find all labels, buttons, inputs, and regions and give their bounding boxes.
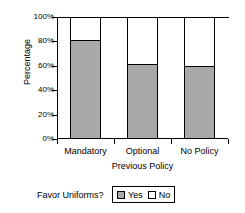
white-swatch-icon — [148, 191, 156, 199]
bar-yes-optional[interactable] — [128, 64, 157, 138]
bar-yes-no-policy[interactable] — [185, 66, 214, 138]
y-tick-label: 80% — [20, 37, 54, 45]
stacked-bar-chart: Percentage 100% 80% 60% 40% 20% 0% — [0, 0, 245, 213]
y-tick-label: 40% — [20, 86, 54, 94]
legend-entry-yes[interactable]: Yes — [117, 190, 143, 200]
bar-no-no-policy[interactable] — [184, 17, 215, 139]
legend: Favor Uniforms? Yes No — [0, 186, 245, 208]
bar-yes-mandatory[interactable] — [71, 40, 100, 138]
legend-entry-no[interactable]: No — [148, 190, 171, 200]
bar-no-optional[interactable] — [127, 17, 158, 139]
x-tick-mark — [114, 139, 115, 144]
x-tick-label-optional: Optional — [114, 146, 171, 156]
legend-box: Yes No — [112, 186, 175, 203]
bar-group-mandatory[interactable] — [70, 17, 101, 139]
y-tick-label: 100% — [20, 13, 54, 21]
x-tick-mark — [57, 139, 58, 144]
legend-label-yes: Yes — [128, 190, 143, 200]
x-tick-mark — [228, 139, 229, 144]
x-tick-label-mandatory: Mandatory — [57, 146, 114, 156]
legend-label-no: No — [159, 190, 171, 200]
y-tick-label: 60% — [20, 62, 54, 70]
bar-group-optional[interactable] — [127, 17, 158, 139]
bar-no-mandatory[interactable] — [70, 17, 101, 139]
x-tick-label-no-policy: No Policy — [171, 146, 228, 156]
y-axis-tick-labels: 100% 80% 60% 40% 20% 0% — [18, 0, 54, 213]
y-tick-label: 0% — [20, 135, 54, 143]
y-tick-label: 20% — [20, 111, 54, 119]
x-axis-title: Previous Policy — [57, 161, 228, 171]
bar-group-no-policy[interactable] — [184, 17, 215, 139]
legend-prompt: Favor Uniforms? — [37, 190, 104, 200]
x-tick-mark — [171, 139, 172, 144]
gray-swatch-icon — [117, 191, 125, 199]
